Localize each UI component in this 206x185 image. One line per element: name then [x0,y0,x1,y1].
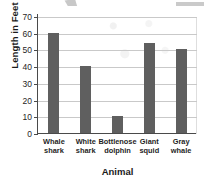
bar [176,49,187,133]
y-axis-tick-label: 50 [23,45,32,55]
bar [48,33,59,133]
top-right-smudge-artifact [176,2,204,6]
x-axis-tick-label-line: Gray [160,137,202,146]
x-axis-title: Animal [38,166,197,177]
gridline [38,34,197,35]
y-axis-tick-mark [34,84,38,85]
bar [144,43,155,133]
y-axis-tick-label: 10 [23,112,32,122]
y-axis-tick-mark [34,34,38,35]
y-axis-tick-label: 60 [23,29,32,39]
y-axis-tick-mark [34,101,38,102]
y-axis-tick-mark [34,50,38,51]
y-axis-tick-label: 0 [27,129,32,139]
gridline [38,101,197,102]
x-axis-tick-label: Graywhale [160,137,202,156]
y-axis-tick-label: 70 [23,12,32,22]
y-axis-tick-label: 40 [23,62,32,72]
y-axis-tick-label: 20 [23,96,32,106]
bar [112,116,123,133]
plot-area: 010203040506070 [38,17,197,134]
y-axis-title: Length in Feet [9,0,20,92]
y-axis-tick-mark [34,134,38,135]
gridline [38,50,197,51]
x-axis-line [37,133,197,134]
gridline [38,84,197,85]
bar [80,66,91,133]
cropped-title-artifact [63,0,79,6]
gridline [38,67,197,68]
y-axis-tick-mark [34,117,38,118]
x-axis-tick-labels: WhalesharkWhitesharkBottlenosedolphinGia… [38,137,197,161]
y-axis-tick-mark [34,17,38,18]
y-axis-tick-mark [34,67,38,68]
x-axis-tick-label-line: whale [160,146,202,155]
bar-chart: Length in Feet 010203040506070 Whaleshar… [0,0,206,185]
y-axis-tick-label: 30 [23,79,32,89]
gridline [38,17,197,18]
